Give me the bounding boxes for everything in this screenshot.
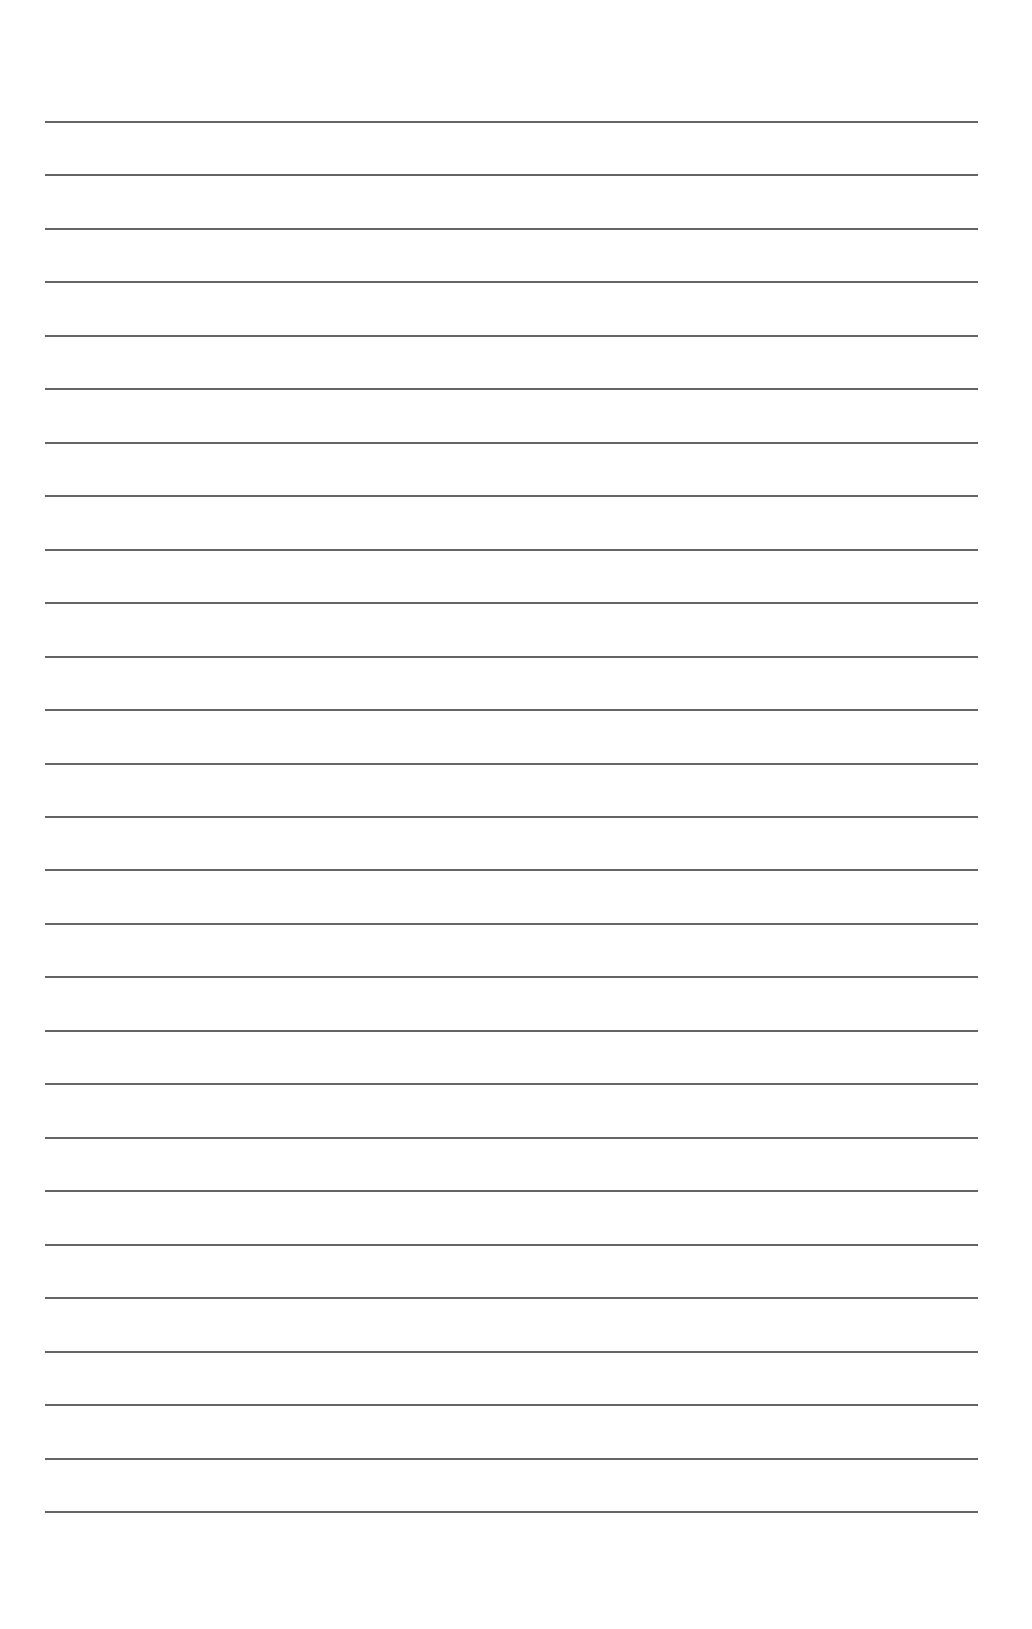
ruled-line — [45, 281, 978, 283]
ruled-line — [45, 174, 978, 176]
ruled-line — [45, 1404, 978, 1406]
ruled-line — [45, 602, 978, 604]
ruled-line — [45, 1083, 978, 1085]
ruled-line — [45, 1030, 978, 1032]
ruled-line — [45, 1351, 978, 1353]
ruled-page — [0, 0, 1032, 1629]
ruled-line — [45, 121, 978, 123]
ruled-line — [45, 549, 978, 551]
ruled-line — [45, 869, 978, 871]
ruled-line — [45, 923, 978, 925]
ruled-line — [45, 1190, 978, 1192]
ruled-line — [45, 495, 978, 497]
ruled-line — [45, 1511, 978, 1513]
ruled-line — [45, 763, 978, 765]
ruled-line — [45, 816, 978, 818]
ruled-line — [45, 709, 978, 711]
ruled-line — [45, 1458, 978, 1460]
ruled-line — [45, 976, 978, 978]
ruled-line — [45, 442, 978, 444]
ruled-line — [45, 388, 978, 390]
ruled-line — [45, 1244, 978, 1246]
ruled-line — [45, 1137, 978, 1139]
ruled-line — [45, 335, 978, 337]
ruled-line — [45, 228, 978, 230]
ruled-line — [45, 1297, 978, 1299]
ruled-line — [45, 656, 978, 658]
